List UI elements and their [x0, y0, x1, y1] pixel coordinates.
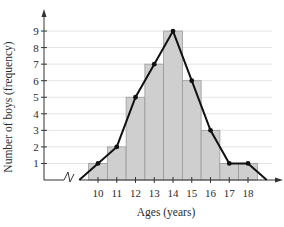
y-tick-label: 1: [33, 157, 39, 169]
y-tick-label: 6: [33, 75, 39, 87]
data-point: [114, 145, 119, 150]
y-tick-label: 7: [33, 58, 39, 70]
y-axis-arrow-icon: [42, 9, 47, 17]
histogram-bars: [89, 31, 258, 180]
data-point: [96, 161, 101, 166]
histogram-bar: [145, 64, 164, 180]
x-axis-arrow-icon: [275, 178, 283, 183]
x-tick-label: 14: [168, 187, 180, 199]
x-tick-label: 12: [130, 187, 141, 199]
y-tick-label: 4: [33, 108, 39, 120]
y-ticks: 123456789: [33, 25, 47, 169]
y-tick-label: 5: [33, 91, 39, 103]
x-tick-label: 18: [243, 187, 255, 199]
x-tick-label: 17: [224, 187, 236, 199]
x-tick-label: 16: [205, 187, 217, 199]
histogram-bar: [126, 97, 145, 180]
y-tick-label: 3: [33, 124, 39, 136]
y-tick-label: 2: [33, 141, 39, 153]
x-tick-label: 11: [111, 187, 122, 199]
x-tick-label: 10: [93, 187, 105, 199]
data-point: [133, 95, 138, 100]
data-point: [152, 62, 157, 67]
histogram-chart: 123456789 101112131415161718 Number of b…: [0, 0, 284, 227]
data-point: [208, 128, 213, 133]
histogram-bar: [201, 130, 220, 180]
data-point: [171, 29, 176, 34]
axis-break-icon: [64, 172, 74, 182]
data-point: [189, 78, 194, 83]
x-tick-label: 13: [149, 187, 161, 199]
x-tick-label: 15: [186, 187, 198, 199]
data-point: [246, 161, 251, 166]
y-tick-label: 8: [33, 42, 39, 54]
y-tick-label: 9: [33, 25, 39, 37]
x-axis-title: Ages (years): [137, 206, 196, 219]
y-axis-title: Number of boys (frequency): [2, 41, 15, 172]
histogram-bar: [164, 31, 183, 180]
data-point: [227, 161, 232, 166]
